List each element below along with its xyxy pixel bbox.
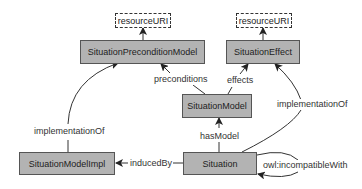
edge-label-implementation-of-left: implementationOf [33,126,106,137]
situation-node: Situation [183,152,257,175]
resource-uri-left-node: resourceURI [115,13,171,28]
situation-model-node: SituationModel [182,94,252,118]
edge-label-effects: effects [226,75,254,86]
situation-model-impl-node: SituationModelImpl [19,152,115,175]
edge-label-has-model: hasModel [199,131,240,142]
situation-effect-node: SituationEffect [226,40,300,64]
edge-label-preconditions: preconditions [153,74,209,85]
resource-uri-right-node: resourceURI [236,13,292,28]
edge-label-induced-by: inducedBy [129,158,173,169]
situation-precondition-model-node: SituationPreconditionModel [80,40,205,64]
edge-label-incompatible-with: owl:incompatibleWith [262,160,349,171]
edge-label-implementation-of-right: implementationOf [276,99,349,110]
